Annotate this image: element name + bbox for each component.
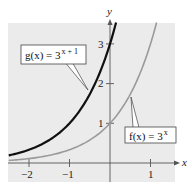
f-label-exponent: x [164,128,168,137]
y-tick-label: 2 [98,77,104,89]
x-axis-label: x [181,156,187,168]
x-axis-arrow-icon [174,161,180,166]
f-callout-label: f(x) = 3x [129,128,168,143]
y-axis-label: y [106,5,112,17]
y-tick-label: 3 [98,38,104,50]
x-tick-label: −1 [62,168,74,180]
y-tick-label: 1 [98,117,104,129]
x-tick-label: −2 [21,168,33,180]
g-label-main: g(x) = 3 [25,49,61,62]
x-tick-label: 1 [148,168,154,180]
y-axis-arrow-icon [108,19,113,25]
f-label-main: f(x) = 3 [129,130,163,143]
exponential-chart: x y −2 −1 1 1 2 3 g(x) = 3x + 1 f(x) [0,0,192,189]
g-label-exponent: x + 1 [62,47,79,56]
